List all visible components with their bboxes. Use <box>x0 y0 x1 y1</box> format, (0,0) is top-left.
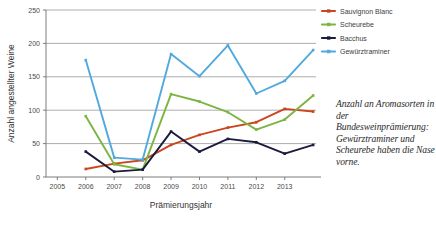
y-tick-label: 100 <box>28 107 40 114</box>
data-point-marker <box>198 75 201 78</box>
x-axis-ticks: 200520062007200820092010201120122013 <box>50 177 293 190</box>
x-tick-label: 2010 <box>192 183 208 190</box>
data-point-marker <box>113 170 116 173</box>
data-point-marker <box>312 110 315 113</box>
y-tick-label: 200 <box>28 40 40 47</box>
data-point-marker <box>227 126 230 129</box>
x-tick-label: 2005 <box>50 183 66 190</box>
legend-marker <box>327 50 330 53</box>
data-point-marker <box>227 111 230 114</box>
data-point-marker <box>84 150 87 153</box>
x-axis-title: Prämierungsjahr <box>150 200 213 210</box>
y-tick-label: 50 <box>32 140 40 147</box>
legend-marker <box>327 36 330 39</box>
data-point-marker <box>227 138 230 141</box>
chart-caption: Anzahl an Aromasorten in der Bundesweinp… <box>336 98 436 168</box>
data-point-marker <box>113 163 116 166</box>
legend-marker <box>327 23 330 26</box>
data-point-marker <box>283 152 286 155</box>
data-point-marker <box>198 100 201 103</box>
chart-legend: Sauvignon BlancScheurebeBacchusGewürztra… <box>322 8 393 56</box>
y-tick-label: 250 <box>28 7 40 14</box>
data-point-marker <box>255 92 258 95</box>
legend-label-sauvignon-blanc: Sauvignon Blanc <box>340 8 393 16</box>
x-tick-label: 2011 <box>220 183 235 190</box>
data-point-marker <box>283 118 286 121</box>
data-point-marker <box>141 168 144 171</box>
data-point-marker <box>113 156 116 159</box>
data-point-marker <box>141 158 144 161</box>
y-tick-label: 0 <box>36 174 40 181</box>
data-point-marker <box>198 134 201 137</box>
chart-figure: 050100150200250 200520062007200820092010… <box>0 0 436 231</box>
data-point-marker <box>283 80 286 83</box>
x-tick-label: 2013 <box>277 183 293 190</box>
data-point-marker <box>255 141 258 144</box>
x-tick-label: 2012 <box>249 183 265 190</box>
legend-marker <box>327 9 330 12</box>
data-point-marker <box>312 94 315 97</box>
data-point-marker <box>255 128 258 131</box>
x-tick-label: 2007 <box>106 183 122 190</box>
data-point-marker <box>198 150 201 153</box>
data-point-marker <box>170 130 173 133</box>
data-point-marker <box>312 49 315 52</box>
data-point-marker <box>255 121 258 124</box>
data-point-marker <box>283 108 286 111</box>
data-point-marker <box>84 115 87 118</box>
data-point-marker <box>227 44 230 47</box>
data-series-group <box>84 44 314 173</box>
data-point-marker <box>84 59 87 62</box>
x-tick-label: 2009 <box>163 183 179 190</box>
data-point-marker <box>312 144 315 147</box>
y-axis-ticks: 050100150200250 <box>28 7 46 181</box>
x-tick-label: 2008 <box>135 183 151 190</box>
data-point-marker <box>84 168 87 171</box>
legend-label-bacchus: Bacchus <box>340 35 367 42</box>
legend-label-gewürztraminer: Gewürztraminer <box>340 48 390 55</box>
series-line-sauvignon-blanc <box>86 109 313 169</box>
data-point-marker <box>170 53 173 56</box>
y-tick-label: 150 <box>28 73 40 80</box>
data-point-marker <box>170 93 173 96</box>
legend-label-scheurebe: Scheurebe <box>340 21 374 28</box>
x-tick-label: 2006 <box>78 183 94 190</box>
data-point-marker <box>170 144 173 147</box>
y-axis-title: Anzahl angestellter Weine <box>6 44 16 143</box>
